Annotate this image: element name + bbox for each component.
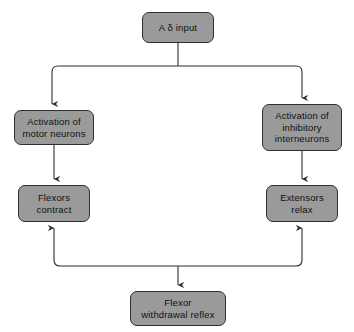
flowchart-diagram: A δ input Activation of motor neurons Ac… <box>0 0 354 332</box>
edge-split-left <box>52 66 178 104</box>
node-extensors-relax-label: Extensors relax <box>277 192 327 215</box>
node-flexors-contract[interactable]: Flexors contract <box>18 185 90 222</box>
edge-reflex-flexors <box>54 228 178 266</box>
node-activation-motor-neurons-label: Activation of motor neurons <box>19 116 88 139</box>
node-activation-inhibitory-interneurons-label: Activation of inhibitory interneurons <box>272 110 333 145</box>
node-activation-motor-neurons[interactable]: Activation of motor neurons <box>14 110 94 145</box>
edge-reflex-extensors <box>178 228 302 266</box>
node-flexors-contract-label: Flexors contract <box>34 192 75 215</box>
node-a-delta-input-label: A δ input <box>156 22 200 34</box>
node-extensors-relax[interactable]: Extensors relax <box>266 185 338 222</box>
node-flexor-withdrawal-reflex-label: Flexor withdrawal reflex <box>138 297 217 320</box>
node-activation-inhibitory-interneurons[interactable]: Activation of inhibitory interneurons <box>262 104 342 151</box>
edge-split-right <box>178 66 302 98</box>
node-a-delta-input[interactable]: A δ input <box>142 12 214 43</box>
connector-layer <box>0 0 354 332</box>
node-flexor-withdrawal-reflex[interactable]: Flexor withdrawal reflex <box>130 291 226 326</box>
